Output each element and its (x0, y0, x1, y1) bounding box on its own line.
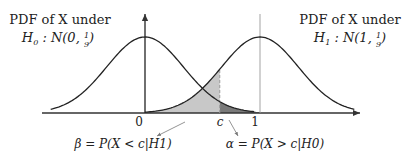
h1-pdf-curve (145, 37, 354, 112)
h1-label-line1: PDF of X under (299, 12, 401, 27)
beta-label: β = P(X < c|H1) (73, 137, 171, 151)
h0-label-line2: H0 : N(0, 19) (21, 30, 94, 49)
beta-pointer (157, 122, 185, 136)
tick-label-c: c (217, 115, 224, 129)
tick-label-0: 0 (135, 115, 143, 129)
beta-region (145, 69, 220, 113)
alpha-pointer (229, 120, 238, 136)
h1-label-line2: H1 : N(1, 19) (313, 30, 386, 49)
tick-label-1: 1 (251, 115, 259, 129)
hypothesis-test-diagram: PDF of X under H0 : N(0, 19) PDF of X un… (0, 0, 406, 160)
alpha-label: α = P(X > c|H0) (226, 137, 325, 151)
h0-pdf-curve (51, 37, 255, 112)
h0-label-line1: PDF of X under (9, 12, 111, 27)
